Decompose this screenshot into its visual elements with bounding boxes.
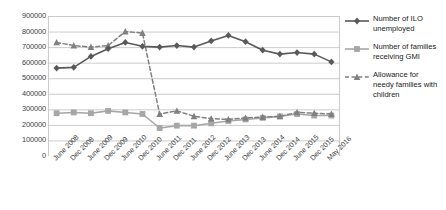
- x-axis: June 2008Dec 2008June 2009Dec 2009June 2…: [48, 156, 340, 210]
- chart-legend: Number of ILO unemployedNumber of famili…: [344, 14, 444, 108]
- data-point-marker: [174, 107, 181, 113]
- legend-item-label: Number of families receiving GMI: [373, 42, 441, 61]
- chart-series: [53, 32, 334, 71]
- legend-item[interactable]: Number of families receiving GMI: [344, 42, 444, 61]
- chart-series: [53, 28, 334, 122]
- y-axis-tick-label: 500000: [0, 74, 46, 82]
- data-point-marker: [225, 32, 231, 39]
- y-axis-tick-label: 200000: [0, 121, 46, 129]
- data-point-marker: [122, 110, 128, 116]
- chart-container: 9000008000007000006000005000004000003000…: [0, 0, 446, 210]
- data-point-marker: [88, 53, 94, 60]
- y-axis: 9000008000007000006000005000004000003000…: [0, 0, 46, 210]
- data-point-marker: [174, 123, 180, 129]
- data-point-marker: [157, 125, 163, 131]
- data-point-marker: [88, 110, 94, 116]
- data-point-marker: [54, 110, 60, 116]
- data-point-marker: [105, 108, 111, 114]
- data-point-marker: [328, 58, 334, 65]
- data-point-marker: [156, 111, 163, 117]
- y-axis-tick-label: 400000: [0, 90, 46, 98]
- y-axis-tick-label: 700000: [0, 43, 46, 51]
- legend-marker-icon: [344, 42, 370, 56]
- y-axis-tick-label: 800000: [0, 28, 46, 36]
- legend-item-label: Allowance for needy families with childr…: [373, 70, 441, 99]
- data-point-marker: [354, 18, 360, 25]
- data-point-marker: [191, 44, 197, 51]
- data-point-marker: [71, 110, 77, 116]
- data-point-marker: [311, 51, 317, 58]
- y-axis-tick-label: 900000: [0, 12, 46, 20]
- data-point-marker: [140, 111, 146, 117]
- data-point-marker: [191, 123, 197, 129]
- data-point-marker: [71, 64, 77, 71]
- data-point-marker: [122, 39, 128, 46]
- data-point-marker: [354, 46, 360, 52]
- chart-series: [54, 108, 335, 131]
- data-point-marker: [208, 37, 214, 44]
- data-point-marker: [242, 38, 248, 45]
- legend-marker-icon: [344, 14, 370, 28]
- data-point-marker: [157, 44, 163, 51]
- legend-item-label: Number of ILO unemployed: [373, 14, 441, 33]
- data-point-marker: [277, 51, 283, 58]
- legend-item[interactable]: Allowance for needy families with childr…: [344, 70, 444, 99]
- data-point-marker: [294, 49, 300, 56]
- y-axis-tick-label: 0: [0, 152, 46, 160]
- y-axis-tick-label: 100000: [0, 136, 46, 144]
- data-point-marker: [53, 65, 59, 72]
- y-axis-tick-label: 300000: [0, 105, 46, 113]
- legend-item[interactable]: Number of ILO unemployed: [344, 14, 444, 33]
- y-axis-tick-label: 600000: [0, 59, 46, 67]
- legend-marker-icon: [344, 70, 370, 84]
